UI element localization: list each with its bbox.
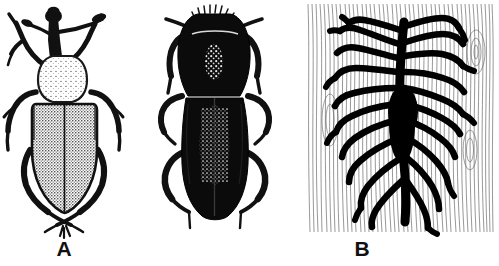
panel-c-gallery: C [300,0,499,266]
panel-b-bark-beetle: B [150,0,300,266]
panel-label-a: A [44,238,84,259]
gallery-pattern-illustration [300,0,499,266]
weevil-pronotum [38,56,87,102]
panel-a-weevil: A [0,0,150,266]
weevil-illustration [0,0,150,266]
bark-beetle-illustration [150,0,300,266]
figure-plate: A [0,0,499,266]
